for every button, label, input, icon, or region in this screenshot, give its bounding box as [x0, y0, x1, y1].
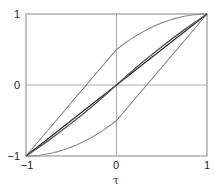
x-tick-1: 1: [197, 160, 215, 171]
x-tick-0: 0: [106, 160, 126, 171]
x-axis-label: τ: [106, 174, 126, 187]
x-tick-neg1: −1: [17, 160, 37, 171]
y-tick-1: 1: [0, 9, 20, 20]
y-tick-0: 0: [0, 80, 20, 91]
